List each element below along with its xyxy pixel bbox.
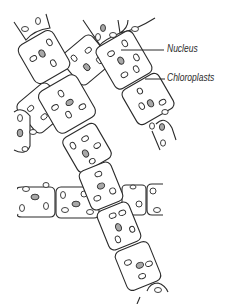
chloroplast [155,288,162,293]
chloroplast [96,34,101,41]
chloroplast [150,188,156,194]
chloroplast [22,27,29,32]
chloroplast [44,203,49,210]
diagram-canvas [0,0,237,304]
nucleus [72,201,80,207]
nucleus [31,194,39,200]
cell-wall [18,187,56,217]
chloroplast [43,183,49,188]
chloroplast [22,147,28,152]
chloroplast [18,115,23,122]
chloroplasts-label: Chloroplasts [167,72,214,83]
chloroplast [132,27,139,32]
nucleus [159,124,164,131]
chloroplast [62,208,69,213]
chloroplast [162,110,168,115]
chloroplast [130,185,136,189]
chloroplast [36,18,41,25]
algae-filament-diagram: Nucleus Chloroplasts [0,0,237,304]
chloroplast [20,205,25,212]
nucleus-label: Nucleus [167,43,198,54]
nucleus [101,25,106,32]
chloroplast [87,210,94,215]
chloroplast [23,187,30,192]
chloroplast [154,208,161,213]
nucleus [17,129,23,137]
chloroplast [150,123,155,129]
chloroplast [161,140,166,146]
chloroplast [136,201,142,207]
chloroplast [30,130,37,135]
chloroplast [61,192,66,199]
